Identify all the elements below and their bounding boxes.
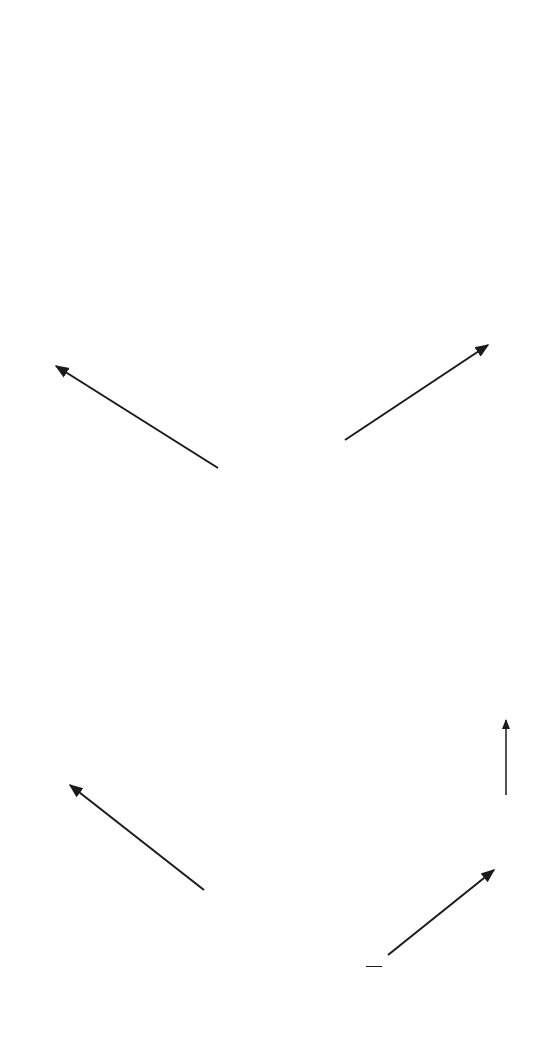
top-left-axis-arrow bbox=[56, 366, 218, 468]
bottom-right-axis-arrow bbox=[388, 870, 494, 955]
top-right-axis-arrow bbox=[345, 345, 488, 440]
bottom-left-axis-arrow bbox=[70, 785, 204, 890]
bottom-right-axis-name bbox=[366, 965, 382, 968]
figure-canvas bbox=[0, 0, 560, 1058]
